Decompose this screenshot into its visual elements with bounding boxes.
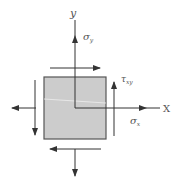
tau-xy-label: τxy <box>121 74 133 86</box>
sigma-y-label: σy <box>83 31 94 44</box>
stress-element-diagram: y X σy σx τxy <box>0 0 181 189</box>
x-axis-label: X <box>163 103 171 114</box>
sigma-x-label: σx <box>130 115 141 127</box>
y-axis-label: y <box>69 7 77 20</box>
